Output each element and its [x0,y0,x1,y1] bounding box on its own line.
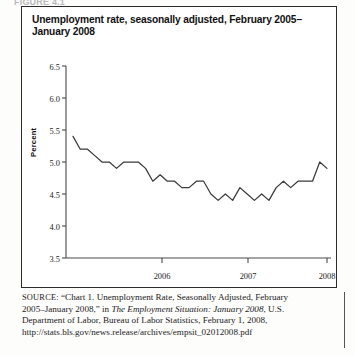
source-citation: SOURCE: “Chart 1. Unemployment Rate, Sea… [22,292,340,338]
source-line-3: Department of Labor, Bureau of Labor Sta… [22,315,267,325]
figure-box: Unemployment rate, seasonally adjusted, … [21,6,337,288]
source-publication-title: The Employment Situation: January 2008 [111,304,263,314]
source-line-1: “Chart 1. Unemployment Rate, Seasonally … [61,292,288,302]
source-line-2-post: , U.S. [263,304,284,314]
chart-svg [22,7,338,289]
x-axis-ticks [162,258,327,263]
source-label: SOURCE: [22,293,59,302]
source-line-2-pre: 2005–January 2008,” in [22,304,111,314]
y-axis-ticks [62,66,66,258]
chart-plot-area: Percent 6.5 6.0 5.5 5.0 4.5 4.0 3.5 2006… [22,7,338,289]
source-url: http://stats.bls.gov/news.release/archiv… [22,327,252,337]
unemployment-rate-line [73,136,327,200]
figure-page: FIGURE 4.1 Unemployment rate, seasonally… [0,0,355,356]
page-right-rule [344,292,345,348]
